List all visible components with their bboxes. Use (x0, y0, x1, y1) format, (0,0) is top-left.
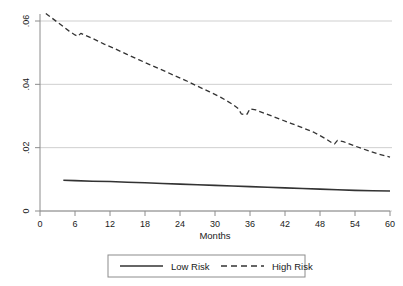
chart-canvas: 0.02.04.06 06121824303642485460 Months L… (0, 0, 403, 286)
x-tick-label: 12 (105, 219, 115, 229)
x-axis-title: Months (199, 230, 230, 241)
y-tick-label: .02 (21, 141, 31, 154)
y-tick-label: 0 (21, 208, 31, 213)
legend-label-low-risk: Low Risk (171, 261, 210, 272)
x-tick-label: 60 (385, 219, 395, 229)
x-tick-label: 18 (140, 219, 150, 229)
x-tick-label: 42 (280, 219, 290, 229)
x-tick-label: 48 (315, 219, 325, 229)
x-tick-label: 36 (245, 219, 255, 229)
chart-figure: 0.02.04.06 06121824303642485460 Months L… (0, 0, 403, 286)
x-tick-label: 0 (37, 219, 42, 229)
legend-label-high-risk: High Risk (272, 261, 313, 272)
y-tick-label: .06 (21, 15, 31, 28)
y-tick-label: .04 (21, 78, 31, 91)
x-tick-label: 24 (175, 219, 185, 229)
x-tick-label: 54 (350, 219, 360, 229)
figure-background (0, 0, 403, 286)
chart-legend: Low Risk High Risk (108, 255, 313, 277)
x-tick-label: 30 (210, 219, 220, 229)
x-tick-label: 6 (72, 219, 77, 229)
